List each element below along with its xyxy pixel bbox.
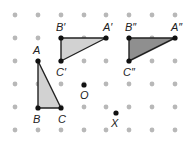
grid-dot [82, 59, 87, 64]
vertex-dot [35, 58, 40, 63]
grid-dot [173, 128, 178, 133]
grid-dot [150, 13, 155, 18]
vertex-dot [35, 105, 40, 110]
grid-dot [104, 128, 109, 133]
grid-dot [150, 82, 155, 87]
grid-dot [127, 82, 132, 87]
point-x-dot [113, 110, 118, 115]
vertex-dot [126, 58, 131, 63]
grid-dot [13, 105, 18, 110]
grid-dot [127, 128, 132, 133]
triangle-abc-1: A′B′C′ [56, 21, 113, 78]
point-x-label: X [110, 117, 119, 129]
vertex-label: B′ [56, 21, 66, 33]
grid-dot [36, 13, 41, 18]
grid-dot [13, 82, 18, 87]
grid-dot [13, 13, 18, 18]
vertex-label: C′ [56, 66, 67, 78]
triangles: ABCA′B′C′A″B″C″ [32, 21, 183, 125]
grid-dot [173, 105, 178, 110]
grid-dot [173, 59, 178, 64]
transformation-diagram: ABCA′B′C′A″B″C″ OX [0, 0, 193, 143]
grid-dot [59, 128, 64, 133]
vertex-dot [58, 35, 63, 40]
grid-dot [104, 13, 109, 18]
vertex-dot [103, 35, 108, 40]
triangle-shape [61, 38, 106, 61]
grid-dot [13, 36, 18, 41]
grid-dot [150, 128, 155, 133]
grid-dot [104, 105, 109, 110]
grid-dot [59, 13, 64, 18]
point-o-dot [81, 82, 86, 87]
vertex-label: A″ [170, 21, 183, 33]
grid-dot [59, 82, 64, 87]
grid-dot [82, 13, 87, 18]
vertex-label: B″ [125, 21, 137, 33]
vertex-label: C [58, 113, 66, 125]
grid-dot [13, 59, 18, 64]
triangle-shape [129, 38, 175, 61]
point-o-label: O [80, 89, 89, 101]
vertex-dot [58, 58, 63, 63]
vertex-dot [126, 35, 131, 40]
grid-dot [127, 105, 132, 110]
vertex-label: A [32, 44, 40, 56]
grid-dot [104, 59, 109, 64]
grid-dot [150, 59, 155, 64]
grid-dot [36, 128, 41, 133]
grid-dot [13, 128, 18, 133]
vertex-dot [58, 105, 63, 110]
grid-dot [150, 105, 155, 110]
grid-dot [127, 13, 132, 18]
grid-dot [173, 13, 178, 18]
vertex-label: C″ [123, 66, 136, 78]
vertex-dot [172, 35, 177, 40]
grid-dot [82, 128, 87, 133]
vertex-label: A′ [102, 21, 113, 33]
grid-dot [173, 82, 178, 87]
vertex-label: B [33, 113, 40, 125]
grid-dot [104, 82, 109, 87]
grid-dot [82, 105, 87, 110]
grid-dot [36, 36, 41, 41]
triangle-abc-2: A″B″C″ [123, 21, 183, 78]
